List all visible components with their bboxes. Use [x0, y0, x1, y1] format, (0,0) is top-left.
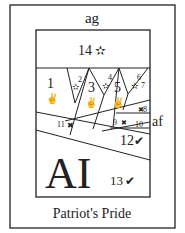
piece-1-num: 1: [47, 76, 54, 91]
piece-11-num: 11: [57, 120, 65, 129]
title: Patriot's Pride: [53, 206, 131, 221]
piece-12-num: 12: [120, 133, 134, 148]
label-top: ag: [85, 10, 100, 26]
victory-hand-icon: ✌: [85, 96, 97, 109]
label-right: af: [152, 114, 163, 129]
quilt-diagram: ag 14 ✫ 1 ✌ 2 ✫ 3 ✌ 4 ✫ 5 ✌ 6 ✫ 7 ✖ 8 9 …: [0, 0, 185, 233]
check-icon: ✔: [125, 174, 135, 188]
piece-5-num: 5: [114, 80, 121, 95]
star-icon: ✫: [95, 43, 106, 58]
piece-3-num: 3: [88, 80, 95, 95]
piece-9-num: 9: [113, 118, 117, 127]
piece-7-num: 7: [141, 81, 145, 90]
piece-14-num: 14: [78, 43, 92, 58]
victory-hand-icon: ✌: [112, 96, 124, 109]
x-icon: ✖: [121, 119, 127, 127]
piece-8-num: 8: [143, 105, 147, 114]
x-icon: ✖: [67, 121, 74, 130]
star-icon: ✫: [102, 81, 110, 91]
check-icon: ✔: [134, 134, 144, 148]
piece-10-num: 10: [135, 120, 143, 129]
center-text: AI: [45, 149, 91, 198]
piece-13-num: 13: [110, 173, 123, 188]
star-icon: ✫: [72, 82, 80, 92]
victory-hand-icon: ✌: [46, 92, 58, 105]
star-icon: ✫: [131, 81, 139, 91]
